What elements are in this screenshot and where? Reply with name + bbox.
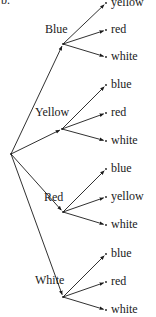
tree-diagram: b. Blue yellow red white Yellow blue red… [0, 0, 156, 317]
leaf-label-white-blue: blue [111, 247, 132, 259]
leaf-label-blue-white: white [111, 50, 138, 62]
leaf-node-white-red [105, 281, 107, 283]
leaf-label-white-red: red [111, 275, 126, 287]
edge-white-to-blue [63, 256, 104, 297]
branch-label-red: Red [44, 191, 63, 203]
leaf-label-white-white: white [111, 303, 138, 315]
leaf-node-red-yellow [105, 196, 107, 198]
leaf-node-red-white [105, 224, 107, 226]
leaf-label-blue-red: red [111, 23, 126, 35]
part-label: b. [1, 0, 10, 6]
leaf-label-red-white: white [111, 218, 138, 230]
edge-root-to-yellow [11, 130, 60, 154]
edge-blue-to-yellow [63, 5, 104, 44]
edge-white-to-red [63, 283, 104, 297]
branch-label-yellow: Yellow [35, 106, 69, 118]
leaf-node-yellow-white [105, 140, 107, 142]
edge-blue-to-white [63, 44, 104, 56]
leaf-label-yellow-red: red [111, 106, 126, 118]
leaf-node-blue-red [105, 29, 107, 31]
leaf-node-blue-white [105, 56, 107, 58]
leaf-label-red-yellow: yellow [111, 190, 144, 202]
leaf-node-blue-yellow [105, 2, 107, 4]
leaf-label-yellow-white: white [111, 134, 138, 146]
branch-label-white: White [35, 274, 64, 286]
branch-label-blue: Blue [45, 23, 68, 35]
leaf-node-red-blue [105, 168, 107, 170]
leaf-label-yellow-blue: blue [111, 78, 132, 90]
edge-red-to-blue [63, 171, 104, 212]
edge-white-to-white [63, 297, 104, 309]
tree-edges [0, 0, 156, 317]
leaf-node-white-blue [105, 253, 107, 255]
leaf-node-yellow-blue [105, 84, 107, 86]
edge-yellow-to-white [62, 129, 104, 140]
edge-red-to-white [63, 212, 104, 224]
leaf-node-yellow-red [105, 112, 107, 114]
edge-blue-to-red [63, 31, 104, 44]
leaf-node-white-white [105, 309, 107, 311]
leaf-label-red-blue: blue [111, 162, 132, 174]
leaf-label-blue-yellow: yellow [111, 0, 144, 8]
edge-root-to-blue [11, 46, 62, 154]
edge-red-to-yellow [63, 198, 104, 212]
